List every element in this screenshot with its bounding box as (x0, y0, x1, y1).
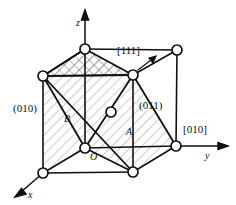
atom-corner-back-top-left (80, 44, 90, 54)
axis-label-y: y (205, 151, 209, 161)
atom-corner-front-bottom-left (38, 168, 48, 178)
edge-back-right (176, 50, 177, 146)
origin-label: O (90, 152, 97, 162)
atom-corner-back-bottom-right (171, 141, 181, 151)
atom-corner-front-top-left (38, 71, 48, 81)
axis-z-arrowhead (82, 10, 89, 20)
region-b-label: B (64, 114, 70, 124)
dir-010-label: [010] (183, 124, 207, 135)
atom-corner-front-top-right (128, 70, 138, 80)
axis-label-x: x (28, 190, 32, 200)
plane-010-label: (010) (13, 103, 37, 114)
atom-corner-origin (80, 143, 90, 153)
edge-front-bottom (43, 172, 133, 173)
region-b-edge-2 (43, 75, 133, 76)
dir-111-label: [111] (117, 45, 140, 56)
plane-011-label: (011) (139, 100, 162, 111)
region-a-label: A (126, 127, 132, 137)
atom-body-center (106, 107, 116, 117)
axis-y-arrowhead (218, 143, 228, 150)
atom-corner-front-bottom-right (128, 167, 138, 177)
atom-corner-back-top-right (172, 45, 182, 55)
axis-label-z: z (76, 18, 80, 28)
